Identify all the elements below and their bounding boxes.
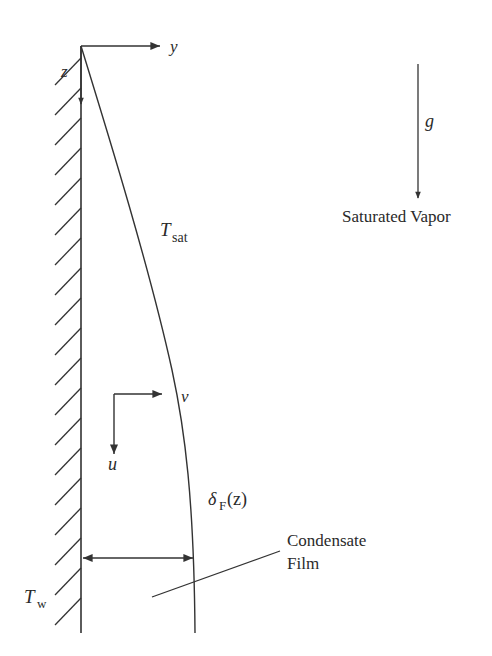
film-thickness: δ F (z) <box>83 489 247 558</box>
film-interface-curve <box>81 46 195 633</box>
y-axis-label: y <box>168 37 178 56</box>
delta-subscript: F <box>219 498 226 513</box>
t-wall-label: T w <box>24 586 47 611</box>
condensate-label-line2: Film <box>287 554 319 573</box>
t-wall-main: T <box>24 586 36 607</box>
v-velocity-label: v <box>181 387 189 406</box>
condensate-label-line1: Condensate <box>287 531 366 550</box>
saturated-vapor-label: Saturated Vapor <box>342 207 451 226</box>
gravity-indicator: g <box>418 64 434 198</box>
condensation-diagram: y z g Saturated Vapor T sat v u δ F (z) … <box>0 0 492 656</box>
t-wall-subscript: w <box>37 596 47 611</box>
z-axis-label: z <box>60 62 68 81</box>
velocity-components: v u <box>108 387 189 474</box>
wall-hatching <box>55 58 81 625</box>
t-sat-label: T sat <box>160 219 188 245</box>
t-sat-subscript: sat <box>172 230 188 245</box>
coordinate-axes: y z <box>60 37 178 104</box>
delta-main: δ <box>208 489 217 509</box>
gravity-label: g <box>425 111 434 131</box>
delta-argument: (z) <box>227 489 247 510</box>
t-sat-main: T <box>160 219 172 240</box>
wall <box>55 46 81 633</box>
u-velocity-label: u <box>108 454 117 474</box>
